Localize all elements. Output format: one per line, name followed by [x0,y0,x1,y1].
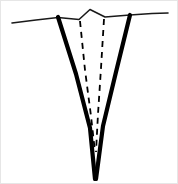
wedge-cross-section-diagram [0,0,178,184]
diagram-background [0,0,178,184]
figure-root [0,0,178,184]
